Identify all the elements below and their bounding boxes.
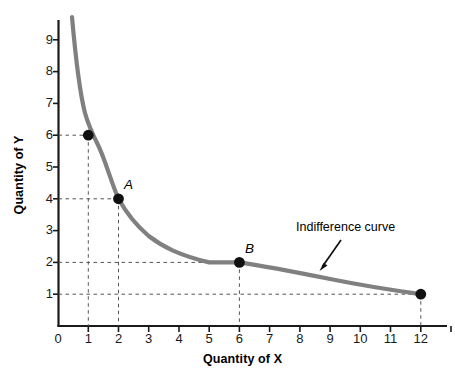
x-tick-label-12: 12	[411, 331, 431, 346]
x-tick-label-3: 3	[139, 331, 159, 346]
x-tick-label-6: 6	[229, 331, 249, 346]
x-axis-title: Quantity of X	[203, 352, 282, 366]
y-tick-label-2: 2	[37, 254, 53, 269]
y-tick-label-9: 9	[37, 32, 53, 47]
y-tick-label-8: 8	[37, 63, 53, 78]
x-tick-label-10: 10	[350, 331, 370, 346]
marker-dot-b	[234, 257, 245, 268]
x-tick-label-11: 11	[381, 331, 401, 346]
point-label-b: B	[245, 241, 254, 256]
y-tick-label-6: 6	[37, 127, 53, 142]
y-tick-label-4: 4	[37, 191, 53, 206]
x-tick-label-0: 0	[48, 331, 68, 346]
plot-area	[0, 0, 455, 377]
marker-dot-a	[113, 193, 124, 204]
x-tick-label-9: 9	[320, 331, 340, 346]
marker-dots	[83, 130, 426, 300]
y-tick-label-7: 7	[37, 95, 53, 110]
x-tick-label-1: 1	[78, 331, 98, 346]
annotation-arrow	[320, 240, 342, 271]
x-tick-label-5: 5	[199, 331, 219, 346]
x-tick-label-4: 4	[169, 331, 189, 346]
indifference-curve-chart: Indifference curve A B Quantity of Y Qua…	[0, 0, 455, 377]
marker-dot-1-6	[83, 130, 94, 141]
x-tick-label-8: 8	[290, 331, 310, 346]
point-label-a: A	[124, 177, 133, 192]
y-tick-label-3: 3	[37, 222, 53, 237]
x-tick-label-2: 2	[109, 331, 129, 346]
y-tick-label-1: 1	[37, 286, 53, 301]
y-axis-title: Quantity of Y	[12, 125, 26, 225]
y-tick-label-5: 5	[37, 159, 53, 174]
annotation-label: Indifference curve	[296, 220, 395, 234]
x-tick-label-7: 7	[260, 331, 280, 346]
marker-dot-12-1	[415, 289, 426, 300]
